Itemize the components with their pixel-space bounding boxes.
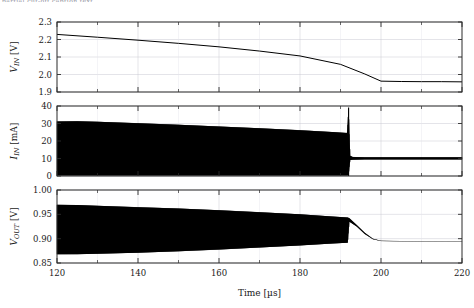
- y-tick-label: 40: [41, 101, 52, 111]
- x-tick-label: 140: [130, 268, 146, 278]
- y-tick-label: 0.90: [33, 234, 52, 244]
- svg-text:VOUT [V]: VOUT [V]: [9, 207, 21, 245]
- x-axis-label: Time [µs]: [238, 288, 281, 298]
- y-tick-label: 2.2: [38, 35, 52, 45]
- y-tick-label: 0.85: [33, 258, 52, 268]
- figure-container: partial cut-off caption text 1.92.02.12.…: [0, 0, 474, 308]
- x-tick-label: 160: [211, 268, 227, 278]
- svg-text:IIN [mA]: IIN [mA]: [9, 123, 21, 161]
- ripple-texture: [57, 205, 462, 254]
- y-tick-label: 2.1: [38, 52, 52, 62]
- y-tick-label: 1.00: [33, 185, 52, 195]
- y-tick-label: 0.95: [33, 209, 52, 219]
- panel-0: 1.92.02.12.22.3VIN [V]: [9, 17, 462, 97]
- multi-panel-waveform-chart: 1.92.02.12.22.3VIN [V]010203040IIN [mA]0…: [0, 0, 474, 308]
- y-tick-label: 2.0: [38, 70, 52, 80]
- cut-off-caption: partial cut-off caption text: [2, 0, 93, 2]
- svg-text:VIN [V]: VIN [V]: [9, 41, 21, 72]
- y-axis-label: VOUT [V]: [9, 207, 21, 245]
- y-axis-label: IIN [mA]: [9, 123, 21, 161]
- x-tick-label: 220: [454, 268, 470, 278]
- y-tick-label: 1.9: [38, 87, 52, 97]
- x-tick-label: 120: [49, 268, 65, 278]
- panel-1: 010203040IIN [mA]: [9, 101, 462, 181]
- y-tick-label: 30: [41, 119, 52, 129]
- y-tick-label: 2.3: [38, 17, 52, 27]
- y-tick-label: 20: [41, 136, 52, 146]
- y-tick-label: 0: [47, 171, 52, 181]
- panel-2: 0.850.900.951.00120140160180200220VOUT […: [9, 185, 470, 278]
- x-tick-label: 180: [292, 268, 308, 278]
- y-tick-label: 10: [41, 154, 52, 164]
- y-axis-label: VIN [V]: [9, 41, 21, 72]
- x-tick-label: 200: [373, 268, 389, 278]
